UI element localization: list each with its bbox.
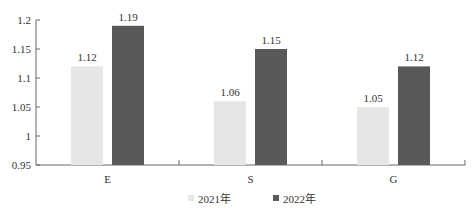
y-tick-label: 1.15	[12, 43, 32, 55]
y-tick-label: 0.95	[12, 159, 32, 171]
bar-G-0	[357, 107, 389, 165]
y-tick-label: 1.1	[17, 72, 31, 84]
category-label: G	[390, 173, 398, 185]
value-label: 1.19	[118, 11, 138, 23]
category-label: S	[247, 173, 253, 185]
y-tick-label: 1	[26, 130, 32, 142]
legend-label-2021: 2021年	[198, 190, 231, 206]
legend: 2021年 2022年	[0, 190, 476, 206]
value-label: 1.05	[363, 92, 383, 104]
legend-label-2022: 2022年	[283, 190, 316, 206]
legend-swatch-2021	[188, 195, 194, 201]
value-label: 1.06	[220, 86, 240, 98]
bar-G-1	[398, 66, 430, 165]
y-tick-label: 1.05	[12, 101, 32, 113]
value-label: 1.15	[261, 34, 281, 46]
bar-E-1	[112, 26, 144, 165]
category-label: E	[104, 173, 111, 185]
esg-bar-chart: 0.9511.051.11.151.2 1.121.19E1.061.15S1.…	[0, 0, 476, 213]
legend-item-2022: 2022年	[273, 190, 316, 206]
legend-swatch-2022	[273, 195, 279, 201]
value-label: 1.12	[77, 51, 96, 63]
bar-E-0	[71, 66, 103, 165]
y-tick-label: 1.2	[17, 14, 31, 26]
bar-S-0	[214, 101, 246, 165]
bar-S-1	[255, 49, 287, 165]
legend-item-2021: 2021年	[188, 190, 231, 206]
value-label: 1.12	[404, 51, 423, 63]
